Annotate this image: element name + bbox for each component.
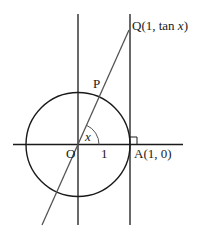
label-A: A(1, 0) xyxy=(134,146,172,161)
unit-circle-diagram: Q(1, tan x) P O 1 A(1, 0) x xyxy=(0,0,203,247)
right-angle-marker xyxy=(130,137,137,145)
label-Q: Q(1, tan x) xyxy=(132,18,188,33)
label-P: P xyxy=(93,76,100,91)
label-O: O xyxy=(66,146,75,161)
label-one: 1 xyxy=(101,146,108,161)
label-angle-x: x xyxy=(84,129,91,144)
